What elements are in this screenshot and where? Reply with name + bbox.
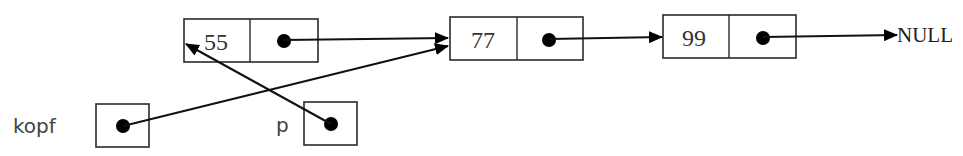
pointer-label: p <box>276 113 289 137</box>
linked-list-diagram: 55 77 99 kopf p NULL <box>0 0 963 156</box>
node-value: 99 <box>682 25 706 51</box>
next-pointer-dot <box>277 34 291 48</box>
next-pointer-dot <box>756 31 770 45</box>
pointer-label: kopf <box>13 114 57 138</box>
null-label: NULL <box>897 23 953 47</box>
pointer-var-p: p <box>276 102 357 145</box>
next-pointer-dot <box>542 33 556 47</box>
node-value: 55 <box>204 29 228 55</box>
node-value: 77 <box>471 27 495 53</box>
